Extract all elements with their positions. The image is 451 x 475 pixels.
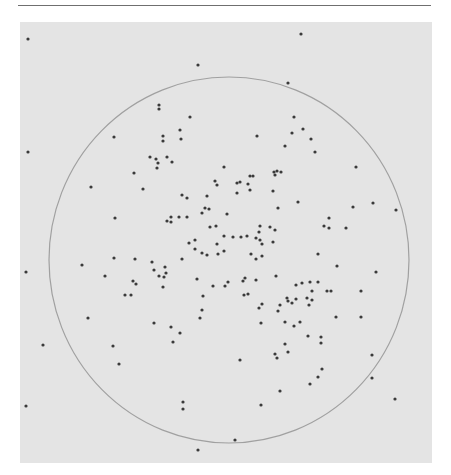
colony-dot	[41, 343, 44, 346]
colony-dot	[223, 284, 226, 287]
colony-dot	[292, 115, 295, 118]
colony-dot	[393, 397, 396, 400]
colony-dot	[112, 256, 115, 259]
colony-dot	[306, 334, 309, 337]
colony-dot	[254, 278, 257, 281]
colony-dot	[201, 294, 204, 297]
colony-dot	[273, 228, 276, 231]
colony-dot	[335, 264, 338, 267]
colony-dot	[354, 165, 357, 168]
colony-dot	[286, 81, 289, 84]
colony-dot	[133, 257, 136, 260]
colony-dot	[171, 340, 174, 343]
colony-dot	[294, 283, 297, 286]
colony-plot	[20, 22, 432, 463]
colony-dot	[222, 165, 225, 168]
colony-dot	[292, 324, 295, 327]
colony-dot	[260, 254, 263, 257]
colony-dot	[257, 306, 260, 309]
colony-dot	[359, 315, 362, 318]
colony-dot	[157, 274, 160, 277]
colony-dot	[86, 316, 89, 319]
colony-dot	[157, 103, 160, 106]
colony-dot	[225, 212, 228, 215]
colony-dot	[213, 179, 216, 182]
colony-dot	[152, 268, 155, 271]
colony-dot	[334, 315, 337, 318]
colony-dot	[89, 185, 92, 188]
colony-dot	[246, 292, 249, 295]
colony-dot	[161, 139, 164, 142]
colony-dot	[254, 236, 257, 239]
colony-dot	[260, 242, 263, 245]
colony-dot	[316, 280, 319, 283]
colony-dot	[275, 356, 278, 359]
colony-dot	[179, 137, 182, 140]
colony-dot	[248, 174, 251, 177]
colony-dot	[243, 276, 246, 279]
colony-dot	[283, 320, 286, 323]
colony-dot	[215, 183, 218, 186]
colony-dot	[155, 166, 158, 169]
colony-dot	[259, 321, 262, 324]
colony-dot	[205, 194, 208, 197]
dish-boundary-circle	[49, 77, 409, 443]
colony-dot	[271, 240, 274, 243]
colony-dot	[233, 438, 236, 441]
colony-dot	[187, 241, 190, 244]
colony-dot	[246, 182, 249, 185]
colony-dot	[188, 115, 191, 118]
colony-dot	[290, 131, 293, 134]
colony-dot	[251, 174, 254, 177]
colony-dot	[178, 128, 181, 131]
colony-dot	[316, 375, 319, 378]
colony-dot	[271, 189, 274, 192]
colony-dot	[285, 296, 288, 299]
colony-dot	[329, 289, 332, 292]
colony-dot	[177, 215, 180, 218]
colony-dot	[278, 389, 281, 392]
colony-dot	[235, 181, 238, 184]
colony-dot	[283, 342, 286, 345]
colony-dot	[254, 257, 257, 260]
colony-dot	[273, 352, 276, 355]
colony-dot	[164, 271, 167, 274]
colony-dot	[278, 303, 281, 306]
colony-dot	[272, 170, 275, 173]
colony-dot	[319, 335, 322, 338]
colony-dot	[165, 155, 168, 158]
colony-dot	[248, 188, 251, 191]
colony-dot	[241, 279, 244, 282]
colony-dot	[309, 137, 312, 140]
colony-dot	[117, 362, 120, 365]
colony-dot	[203, 206, 206, 209]
colony-dot	[296, 200, 299, 203]
colony-dot	[374, 270, 377, 273]
colony-dot	[300, 281, 303, 284]
colony-dot	[141, 187, 144, 190]
colony-dot	[249, 252, 252, 255]
colony-dot	[157, 107, 160, 110]
colony-dot	[394, 208, 397, 211]
colony-dot	[344, 226, 347, 229]
colony-dot	[351, 205, 354, 208]
colony-dot	[257, 230, 260, 233]
colony-dot	[242, 293, 245, 296]
colony-dot	[294, 297, 297, 300]
colony-dot	[216, 252, 219, 255]
colony-dot	[258, 238, 261, 241]
colony-dot	[185, 215, 188, 218]
colony-dot	[150, 260, 153, 263]
colony-dot	[226, 280, 229, 283]
colony-dot	[26, 37, 29, 40]
colony-dot	[370, 353, 373, 356]
colony-dot	[129, 293, 132, 296]
colony-dot	[308, 280, 311, 283]
colony-dot	[207, 207, 210, 210]
colony-dot	[319, 341, 322, 344]
colony-dot	[222, 249, 225, 252]
colony-dot	[196, 63, 199, 66]
colony-dot	[298, 320, 301, 323]
colony-dot	[123, 293, 126, 296]
colony-dot	[178, 331, 181, 334]
